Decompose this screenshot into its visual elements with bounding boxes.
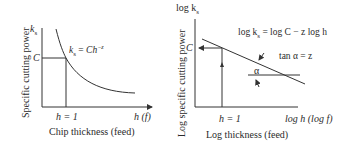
right-y-axis-symbol: log ks — [176, 3, 199, 16]
left-x-axis-label: Chip thickness (feed) — [49, 127, 135, 137]
left-h1-label: h = 1 — [56, 112, 78, 122]
right-h1-label: h = 1 — [219, 114, 241, 124]
right-x-axis-symbol: log h (log f) — [285, 114, 333, 124]
left-y-axis-label: Specific cutting power — [20, 27, 31, 118]
right-c-label: C — [186, 43, 193, 53]
right-x-axis-label: Log thickness (feed) — [206, 130, 288, 140]
alpha-label: α — [254, 66, 259, 76]
left-c-label: C — [33, 53, 40, 63]
right-equation: log ks = log C − z log h — [238, 28, 327, 40]
left-y-axis-symbol: ks — [30, 24, 37, 37]
tan-alpha-label: tan α = z — [279, 52, 312, 62]
diagram-graphics — [0, 0, 350, 147]
left-plot — [42, 28, 152, 107]
left-x-axis-symbol: h (f) — [134, 112, 151, 122]
left-equation: ks = Ch−z — [69, 44, 104, 58]
